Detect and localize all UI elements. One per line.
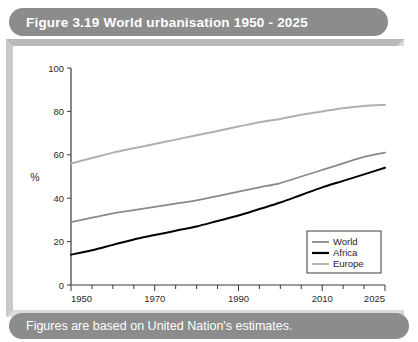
y-tick-label: 0	[59, 280, 64, 291]
x-tick-label: 2025	[364, 293, 385, 304]
series-line-europe	[71, 105, 385, 164]
y-tick-label: 80	[53, 106, 64, 117]
legend-label-world: World	[333, 236, 358, 247]
series-line-world	[71, 153, 385, 222]
legend-label-europe: Europe	[333, 258, 364, 269]
y-tick-label: 100	[48, 63, 64, 74]
x-tick-label: 2010	[312, 293, 333, 304]
legend-label-africa: Africa	[333, 247, 358, 258]
y-tick-label: 20	[53, 236, 64, 247]
y-tick-label: 60	[53, 149, 64, 160]
page-title: Figure 3.19 World urbanisation 1950 - 20…	[9, 15, 308, 30]
line-chart: 020406080100%19501970199020102025WorldAf…	[13, 46, 405, 310]
figure-caption-bar: Figures are based on United Nation's est…	[9, 313, 409, 339]
x-tick-label: 1950	[71, 293, 92, 304]
x-tick-label: 1990	[228, 293, 249, 304]
figure-title-bar: Figure 3.19 World urbanisation 1950 - 20…	[9, 8, 388, 36]
figure-caption: Figures are based on United Nation's est…	[9, 319, 292, 333]
chart-plot-area: 020406080100%19501970199020102025WorldAf…	[13, 46, 405, 310]
y-tick-label: 40	[53, 193, 64, 204]
x-tick-label: 1970	[144, 293, 165, 304]
y-axis-title: %	[30, 171, 39, 183]
figure-container: Figure 3.19 World urbanisation 1950 - 20…	[0, 0, 418, 342]
